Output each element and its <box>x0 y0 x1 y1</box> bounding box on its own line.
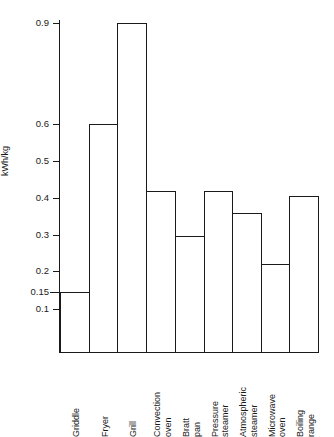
y-tick-mark <box>53 23 60 24</box>
bar-fryer <box>89 124 118 353</box>
x-tick-label: range <box>306 357 334 437</box>
bar-pressure-steamer <box>204 191 233 353</box>
y-tick-mark <box>53 235 60 236</box>
y-tick-label: 0.6 <box>9 119 49 129</box>
y-tick-label: 0.15 <box>9 287 49 297</box>
y-tick-mark <box>53 161 60 162</box>
y-tick-mark <box>50 292 60 293</box>
x-tick-label: Fryer <box>100 357 129 437</box>
bar-griddle <box>60 292 90 353</box>
y-tick-mark <box>53 198 60 199</box>
bar-convection-oven <box>146 191 176 353</box>
bar-atmospheric-steamer <box>232 213 262 353</box>
y-tick-label: 0.5 <box>9 156 49 166</box>
y-tick-label: 0.3 <box>9 230 49 240</box>
x-tick-label: Griddle <box>71 357 100 437</box>
y-tick-label: 0.9 <box>9 18 49 28</box>
y-tick-mark <box>53 124 60 125</box>
bar-bratt-pan <box>175 236 205 353</box>
y-tick-mark <box>53 271 60 272</box>
y-tick-mark <box>53 309 60 310</box>
bar-boiling-range <box>289 196 319 353</box>
bar-microwave-oven <box>261 264 290 353</box>
y-tick-label: 0.2 <box>9 266 49 276</box>
y-tick-label: 0.4 <box>9 193 49 203</box>
y-tick-label: 0.1 <box>9 304 49 314</box>
bar-grill <box>117 23 147 353</box>
bar-chart-figure: kWh/kg 0.90.60.50.40.30.20.150.1 Griddle… <box>0 0 334 437</box>
